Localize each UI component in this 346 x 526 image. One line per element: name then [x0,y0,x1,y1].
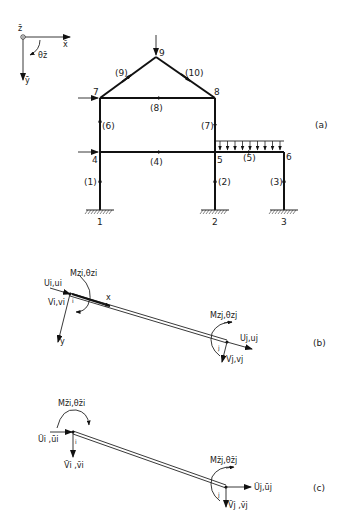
force-label: Vj,vj [226,355,243,364]
node-label: 6 [286,152,292,162]
hatch-line [215,210,218,214]
fixed-support [269,210,298,214]
node-label: i [75,438,77,445]
hatch-line [284,210,287,214]
hatch-line [91,210,94,214]
theta-label: θz̄ [38,51,47,60]
force-label: Uj,uj [240,334,258,343]
hatch-line [106,210,109,214]
hatch-line [269,210,272,214]
hatch-line [224,210,227,214]
node-label: 1 [97,217,103,227]
member-label: (10) [185,68,203,78]
hatch-line [85,210,88,214]
distributed-load [216,141,284,150]
moment-label: Mz̄i,θz̄i [58,399,85,408]
hatch-line [287,210,290,214]
hatch-line [272,210,275,214]
moment-arrow [76,276,90,312]
member-label: (9) [115,68,128,78]
member-label: (4) [150,157,163,167]
panel-a-frame: 1 2 3 4 5 6 7 8 9 (1) (2) (3) (4) (5) (6… [78,35,328,227]
member-label: (6) [102,121,115,131]
hatch-line [275,210,278,214]
member-label: (3) [270,177,283,187]
force-label: Ūi ,ūi [38,434,58,444]
moment-label: Mz̄j,θz̄j [210,456,237,465]
force-label: V̄i ,v̄i [64,460,84,470]
hatch-line [281,210,284,214]
fixed-support [200,210,229,214]
hatch-line [206,210,209,214]
hatch-line [278,210,281,214]
axis-label: x [106,293,111,302]
x-axis-label: x̄ [63,40,68,49]
hatch-line [103,210,106,214]
member-label: (7) [201,121,214,131]
panel-b-local-element: Ui,ui Vi,vi Mzi,θzi i x y Mzj,θzj Uj,uj … [44,269,326,364]
node-label: j [217,344,220,352]
member-label: (1) [84,177,97,187]
panel-c-global-element: Mz̄i,θz̄i Ūi ,ūi V̄i ,v̄i i Mz̄j,θz̄j Ūj… [38,399,325,510]
moment-label: Mzi,θzi [70,269,97,278]
hatch-line [212,210,215,214]
structural-figure: z̄ x̄ ȳ θz̄ [0,0,346,526]
node-label: 5 [217,155,223,165]
hatch-line [100,210,103,214]
hatch-line [293,210,296,214]
panel-label: (c) [313,483,325,493]
axis-label: y [60,337,65,346]
moment-arrow [57,410,89,428]
hatch-line [218,210,221,214]
hatch-line [221,210,224,214]
hatch-line [290,210,293,214]
force-label: Vi,vi [48,298,65,307]
fixed-support [85,210,114,214]
force-label: Ūj,ūj [254,482,272,492]
hatch-line [200,210,203,214]
member-label: (5) [243,153,256,163]
node-label: i [72,297,74,304]
force-arrow [227,342,252,349]
member-label: (2) [218,177,231,187]
hatch-line [88,210,91,214]
node-label: 8 [214,87,220,97]
hatch-line [109,210,112,214]
y-axis-label: ȳ [25,76,30,85]
node-label: 9 [159,48,165,58]
panel-label: (a) [315,120,328,130]
moment-label: Mzj,θzj [210,311,237,320]
force-arrow [50,288,70,294]
force-label: Ui,ui [44,279,62,288]
z-axis-label: z̄ [18,24,22,33]
force-label: V̄j ,v̄j [228,500,248,510]
hatch-line [203,210,206,214]
node-label: 4 [92,155,98,165]
hatch-line [97,210,100,214]
node-label: 2 [212,217,218,227]
member-label: (8) [150,103,163,113]
panel-label: (b) [313,338,326,348]
global-coordinate-system: z̄ x̄ ȳ θz̄ [18,24,70,85]
node-label: j [217,491,220,499]
node-label: 3 [281,217,287,227]
hatch-line [94,210,97,214]
hatch-line [209,210,212,214]
node-label: 7 [93,87,99,97]
